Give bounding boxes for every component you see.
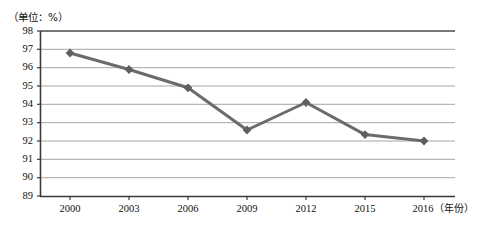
y-tick-label: 91 [9,154,33,165]
y-tick-label: 96 [9,62,33,73]
y-tick-label: 90 [9,172,33,183]
y-tick-label: 97 [9,44,33,55]
line-chart: （单位：%） 98979695949392919089 200020032006… [0,0,483,227]
x-tick-label-text: 2016 [413,203,434,214]
y-tick-label: 92 [9,136,33,147]
data-point-markers [66,49,429,146]
axis-lines [40,31,455,197]
y-tick-label: 95 [9,81,33,92]
data-point-marker [66,49,75,58]
data-point-marker [420,137,429,146]
gridlines [41,31,455,178]
x-tick-label: 2012 [296,204,317,215]
y-tick-label: 93 [9,117,33,128]
x-tick-label: 2006 [178,204,199,215]
y-tick-label: 94 [9,99,33,110]
x-tick-label: 2000 [60,204,81,215]
plot-area [0,0,483,227]
x-axis-unit-label: （年份） [434,203,474,214]
x-tick-label: 2015 [355,204,376,215]
x-tick-label: 2009 [237,204,258,215]
x-tick-label: 2003 [119,204,140,215]
y-tick-label: 98 [9,26,33,37]
data-point-marker [125,65,134,74]
x-tick-label: 2016（年份） [413,204,474,215]
y-tick-label: 89 [9,191,33,202]
